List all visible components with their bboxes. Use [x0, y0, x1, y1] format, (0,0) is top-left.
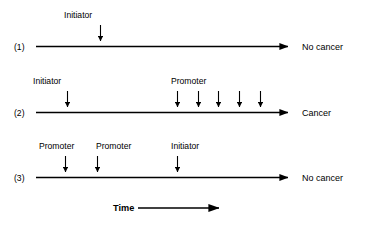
row-1-initiator-label: Initiator — [64, 10, 92, 20]
time-axis: Time — [113, 203, 219, 213]
timeline-row-2: (2) Initiator Promoter Cancer — [14, 76, 331, 118]
initiation-promotion-diagram: (1) Initiator No cancer (2) Initiator Pr… — [0, 0, 370, 226]
row-2-initiator-label: Initiator — [33, 76, 61, 86]
row-1-number: (1) — [14, 42, 25, 52]
row-3-promoter-label-a: Promoter — [39, 141, 74, 151]
row-2-outcome-label: Cancer — [302, 108, 331, 118]
row-2-number: (2) — [14, 108, 25, 118]
row-3-outcome-label: No cancer — [302, 173, 343, 183]
row-3-promoter-label-b: Promoter — [96, 141, 131, 151]
row-2-promoter-label: Promoter — [171, 76, 206, 86]
diagram-canvas: (1) Initiator No cancer (2) Initiator Pr… — [0, 0, 370, 226]
row-1-outcome-label: No cancer — [302, 42, 343, 52]
row-3-initiator-label: Initiator — [171, 141, 199, 151]
timeline-row-3: (3) Promoter Promoter Initiator No cance… — [14, 141, 343, 183]
timeline-row-1: (1) Initiator No cancer — [14, 10, 343, 52]
row-3-number: (3) — [14, 173, 25, 183]
time-axis-label: Time — [113, 203, 134, 213]
